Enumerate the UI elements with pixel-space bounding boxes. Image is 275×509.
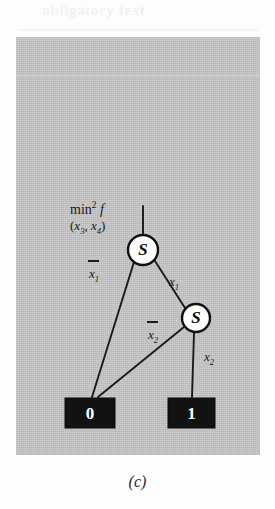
edge-label-x2-sub: 2 — [210, 357, 214, 367]
function-annotation-line-2: (x3, x4) — [70, 218, 105, 236]
edge-label-not-x2-sub: 2 — [154, 335, 158, 345]
negation-overbar-icon-x2 — [147, 321, 158, 323]
scanned-page: obligatory text S S min2 f (x3, x4) — [0, 0, 275, 509]
function-annotation: min2 f (x3, x4) — [70, 200, 105, 236]
terminal-zero-label: 0 — [65, 405, 115, 422]
function-name: min — [70, 202, 92, 217]
edge-label-x1: x1 — [169, 274, 179, 292]
edge-label-x2: x2 — [204, 349, 214, 367]
negation-overbar-wrap-x2: x2 — [148, 327, 158, 345]
edge-label-not-x1-sub: 1 — [95, 274, 99, 284]
negation-overbar-wrap-x1: x1 — [89, 266, 99, 284]
figure-caption: (c) — [0, 473, 275, 491]
terminal-one-label: 1 — [168, 405, 215, 422]
negation-overbar-icon — [88, 260, 99, 262]
function-symbol: f — [100, 202, 104, 217]
edge-label-not-x2: x2 — [148, 327, 158, 345]
function-superscript: 2 — [92, 200, 97, 210]
edge-label-x1-sub: 1 — [175, 282, 179, 292]
arg-close-paren: ) — [101, 218, 105, 233]
node-s-lower-label: S — [183, 309, 209, 326]
edge-label-not-x1: x1 — [89, 266, 99, 284]
edge-lower-to-one — [192, 333, 194, 397]
function-annotation-line-1: min2 f — [70, 200, 105, 218]
node-s-top-label: S — [130, 241, 156, 258]
